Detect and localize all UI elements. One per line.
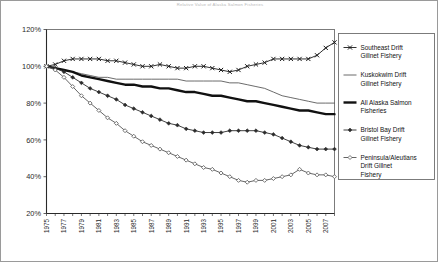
data-point-marker — [97, 90, 101, 94]
y-axis-tick-label: 100% — [22, 62, 41, 71]
data-point-marker — [254, 129, 258, 133]
x-axis-tick-label: 1993 — [200, 219, 207, 234]
x-axis-tick-label: 1981 — [95, 219, 102, 234]
x-axis-tick-label: 1989 — [165, 219, 172, 234]
data-point-marker — [289, 140, 293, 144]
data-point-marker — [167, 121, 171, 125]
data-series-group — [44, 40, 336, 184]
legend-item-label: Fisheries — [361, 107, 387, 114]
data-point-marker — [202, 131, 206, 135]
y-axis-tick-label: 120% — [22, 25, 41, 34]
legend-item-label: Bristol Bay Drift — [361, 126, 405, 134]
series-5 — [45, 64, 337, 184]
legend-item-label: Peninsula/Aleutians — [361, 154, 417, 161]
line-chart-plot: 20%40%60%80%100%120% 1975197719791981198… — [1, 1, 438, 262]
legend-item-label: Gillnet Fishery — [361, 80, 403, 88]
x-axis-tick-label: 1975 — [43, 219, 50, 234]
legend-item-label: Drift Gillnet — [361, 162, 393, 169]
x-axis-tick-label: 2001 — [270, 219, 277, 234]
x-axis-tick-label: 1987 — [148, 219, 155, 234]
data-point-marker — [141, 110, 145, 114]
data-point-marker — [298, 144, 302, 148]
data-point-marker — [202, 166, 206, 170]
legend-item-label: All Alaska Salmon — [361, 99, 413, 106]
data-point-marker — [149, 114, 153, 118]
data-point-marker — [219, 131, 223, 135]
data-point-marker — [280, 136, 284, 140]
y-axis-tick-group: 20%40%60%80%100%120% — [22, 25, 46, 218]
data-point-marker — [237, 178, 241, 182]
legend-item-label: Gillnet Fishery — [361, 135, 403, 143]
data-point-marker — [219, 171, 223, 175]
data-point-marker — [167, 151, 171, 155]
data-point-marker — [333, 175, 337, 179]
data-point-marker — [158, 118, 162, 122]
data-point-marker — [254, 178, 258, 182]
data-point-marker — [324, 173, 328, 177]
data-point-marker — [333, 147, 337, 151]
data-point-marker — [184, 127, 188, 131]
legend-item-label: Kuskokwim Drift — [361, 71, 407, 78]
legend-item-label: Southeast Drift — [361, 44, 403, 51]
series-line — [47, 66, 335, 103]
data-point-marker — [306, 145, 310, 149]
x-axis-tick-group: 1975197719791981198319851987198919911993… — [43, 214, 335, 234]
x-axis-tick-label: 1979 — [78, 219, 85, 234]
plot-area-border — [47, 30, 335, 214]
series-1 — [44, 40, 336, 74]
data-point-marker — [176, 123, 180, 127]
y-axis-tick-label: 60% — [26, 136, 41, 145]
data-point-marker — [271, 177, 275, 181]
x-axis-tick-label: 2005 — [305, 219, 312, 234]
data-point-marker — [245, 180, 249, 184]
series-2 — [47, 66, 335, 103]
data-point-marker — [106, 94, 110, 98]
data-point-marker — [272, 132, 276, 136]
data-point-marker — [184, 158, 188, 162]
data-point-marker — [193, 162, 197, 166]
data-point-marker — [315, 147, 319, 151]
y-axis-tick-label: 80% — [26, 99, 41, 108]
data-point-marker — [228, 175, 232, 179]
data-point-marker — [315, 173, 319, 177]
data-point-marker — [263, 131, 267, 135]
data-point-marker — [315, 53, 319, 57]
data-point-marker — [132, 107, 136, 111]
data-point-marker — [158, 147, 162, 151]
data-point-marker — [228, 129, 232, 133]
x-axis-tick-label: 2003 — [287, 219, 294, 234]
chart-figure: Relative Value of Alaska Salmon Fisherie… — [0, 0, 438, 262]
data-point-marker — [263, 178, 267, 182]
data-point-marker — [280, 175, 284, 179]
y-axis-tick-label: 40% — [26, 172, 41, 181]
data-point-marker — [210, 167, 214, 171]
legend-item-label: Gillnet Fishery — [361, 52, 403, 60]
data-point-marker — [175, 154, 179, 158]
chart-legend: Southeast DriftGillnet FisheryKuskokwim … — [339, 34, 435, 180]
data-point-marker — [210, 131, 214, 135]
data-point-marker — [149, 143, 153, 147]
x-axis-tick-label: 2007 — [322, 219, 329, 234]
x-axis-tick-label: 1991 — [183, 219, 190, 234]
x-axis-tick-label: 1995 — [217, 219, 224, 234]
data-point-marker — [237, 129, 241, 133]
x-axis-tick-label: 1997 — [235, 219, 242, 234]
data-point-marker — [245, 129, 249, 133]
data-point-marker — [306, 171, 310, 175]
series-line — [47, 66, 335, 182]
data-point-marker — [324, 147, 328, 151]
x-axis-tick-label: 1985 — [130, 219, 137, 234]
x-axis-tick-label: 1983 — [113, 219, 120, 234]
data-point-marker — [324, 46, 328, 50]
y-axis-tick-label: 20% — [26, 209, 41, 218]
legend-item-label: Fishery — [361, 171, 383, 179]
data-point-marker — [193, 129, 197, 133]
series-line — [47, 42, 335, 71]
x-axis-tick-label: 1999 — [252, 219, 259, 234]
x-axis-tick-label: 1977 — [60, 219, 67, 234]
plot-frame — [47, 30, 335, 214]
